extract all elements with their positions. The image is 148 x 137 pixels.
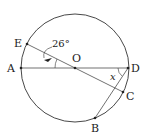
point-D [127,67,130,70]
point-A [20,67,23,70]
label-C: C [126,90,134,103]
label-D: D [131,62,140,75]
label-E: E [14,37,22,50]
angle-pointer [44,47,52,58]
label-A: A [6,62,16,75]
point-E [26,43,29,46]
point-B [94,117,97,120]
angle-label-26: 26° [52,38,70,49]
label-B: B [91,122,99,135]
angle-arc-26 [55,59,57,68]
point-C [122,91,125,94]
geometry-diagram: A D O E C B 26° x [0,0,148,137]
angle-label-x: x [110,71,116,82]
angle-arc-x [118,68,122,76]
arrow-icon [44,58,52,62]
point-O [74,67,77,70]
label-O: O [72,52,81,65]
